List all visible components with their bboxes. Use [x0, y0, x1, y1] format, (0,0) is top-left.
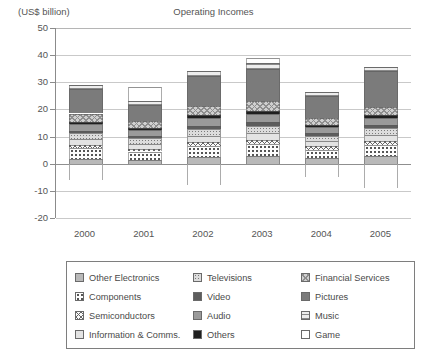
- gridline-30: [56, 82, 411, 83]
- bar-segment-others: [246, 111, 280, 114]
- legend-swatch-icon: [193, 273, 202, 282]
- legend-label: Game: [315, 330, 340, 340]
- legend-item-pictures[interactable]: Pictures: [301, 292, 411, 302]
- x-axis-label-2005: 2005: [350, 228, 410, 239]
- y-tick-mark: [50, 218, 55, 219]
- bar-2002[interactable]: [187, 28, 221, 218]
- bar-segment-game: [128, 87, 162, 101]
- y-tick-mark: [50, 109, 55, 110]
- legend-item-music[interactable]: Music: [301, 311, 411, 321]
- y-tick-mark: [50, 164, 55, 165]
- bar-segment-televisions: [128, 138, 162, 143]
- legend-swatch-icon: [75, 273, 84, 282]
- bar-segment-others: [305, 125, 339, 127]
- chart-container: (US$ billion) Operating Incomes 50403020…: [0, 0, 427, 252]
- legend-grid: Other ElectronicsTelevisionsFinancial Se…: [75, 268, 411, 344]
- legend-swatch-icon: [301, 292, 310, 301]
- x-axis-label-2001: 2001: [114, 228, 174, 239]
- bar-segment-audio: [187, 118, 221, 126]
- bar-segment-pictures: [187, 76, 221, 106]
- bar-segment-others: [69, 122, 103, 124]
- bar-segment-infocomms: [128, 144, 162, 149]
- bar-segment-infocomms: [69, 139, 103, 144]
- bar-segment-semiconductors: [69, 145, 103, 148]
- bar-2004[interactable]: [305, 28, 339, 218]
- bar-segment-others: [364, 115, 398, 118]
- bar-segment-others: [128, 128, 162, 130]
- legend-item-components[interactable]: Components: [75, 292, 193, 302]
- bar-segment-televisions: [364, 128, 398, 135]
- bar-segment-televisions: [246, 126, 280, 134]
- bar-segment-video: [364, 125, 398, 128]
- bar-segment-components: [246, 144, 280, 156]
- plot-area: [55, 28, 410, 218]
- legend-label: Audio: [207, 311, 231, 321]
- bar-segment-audio: [364, 118, 398, 125]
- bar-segment-semiconductors: [246, 140, 280, 144]
- legend-label: Pictures: [315, 292, 348, 302]
- legend-label: Music: [315, 311, 339, 321]
- bar-segment-semiconductors: [187, 142, 221, 146]
- legend-swatch-icon: [301, 330, 310, 339]
- bar-segment-components: [305, 150, 339, 159]
- legend-item-semiconductors[interactable]: Semiconductors: [75, 311, 193, 321]
- bar-segment-music: [364, 67, 398, 72]
- bar-2000[interactable]: [69, 28, 103, 218]
- chart-legend: Other ElectronicsTelevisionsFinancial Se…: [66, 261, 415, 349]
- bar-segment-other-electronics: [364, 156, 398, 164]
- y-axis-label: -10: [14, 185, 48, 196]
- legend-item-others[interactable]: Others: [193, 330, 301, 340]
- bar-segment-infocomms: [246, 133, 280, 140]
- legend-item-audio[interactable]: Audio: [193, 311, 301, 321]
- legend-label: Others: [207, 330, 235, 340]
- chart-title: Operating Incomes: [0, 6, 427, 17]
- y-axis-label: 20: [14, 103, 48, 114]
- legend-swatch-icon: [75, 330, 84, 339]
- bar-segment-components: [187, 146, 221, 157]
- legend-item-game[interactable]: Game: [301, 330, 411, 340]
- bar-segment-televisions: [69, 133, 103, 139]
- bar-segment-pictures: [246, 69, 280, 102]
- bar-segment-components: [364, 145, 398, 156]
- bar-segment-televisions: [305, 136, 339, 141]
- x-axis-label-2004: 2004: [291, 228, 351, 239]
- bar-segment-financial: [69, 114, 103, 122]
- bar-segment-semiconductors: [305, 146, 339, 149]
- bar-segment-video: [128, 136, 162, 138]
- bar-segment-music: [305, 92, 339, 96]
- bar-2005[interactable]: [364, 28, 398, 218]
- bar-segment-video: [305, 133, 339, 136]
- bar-segment-video: [69, 131, 103, 134]
- bar-2003[interactable]: [246, 28, 280, 218]
- bar-segment-music: [128, 101, 162, 105]
- bar-segment-video: [246, 122, 280, 126]
- bar-segment-game: [69, 164, 103, 180]
- y-tick-mark: [50, 191, 55, 192]
- gridline--20: [56, 218, 411, 219]
- x-axis-label-2003: 2003: [232, 228, 292, 239]
- bar-segment-music: [187, 71, 221, 76]
- legend-swatch-icon: [75, 292, 84, 301]
- bar-2001[interactable]: [128, 28, 162, 218]
- chart-page: (US$ billion) Operating Incomes 50403020…: [0, 0, 427, 359]
- y-axis-label: -20: [14, 212, 48, 223]
- legend-label: Components: [89, 292, 141, 302]
- legend-label: Semiconductors: [89, 311, 155, 321]
- legend-swatch-icon: [193, 292, 202, 301]
- bar-segment-audio: [69, 124, 103, 131]
- legend-item-other-electronics[interactable]: Other Electronics: [75, 273, 193, 283]
- gridline-40: [56, 55, 411, 56]
- legend-item-video[interactable]: Video: [193, 292, 301, 302]
- bar-segment-semiconductors: [364, 141, 398, 145]
- bar-segment-pictures: [305, 96, 339, 118]
- bar-segment-music: [246, 63, 280, 68]
- legend-item-infocomms[interactable]: Information & Comms.: [75, 330, 193, 340]
- bar-segment-financial: [364, 107, 398, 116]
- bar-segment-music: [69, 85, 103, 89]
- bar-segment-infocomms: [305, 141, 339, 146]
- legend-item-televisions[interactable]: Televisions: [193, 273, 301, 283]
- bar-segment-televisions: [187, 129, 221, 136]
- legend-item-financial[interactable]: Financial Services: [301, 273, 411, 283]
- bar-segment-audio: [128, 130, 162, 136]
- legend-label: Other Electronics: [89, 273, 159, 283]
